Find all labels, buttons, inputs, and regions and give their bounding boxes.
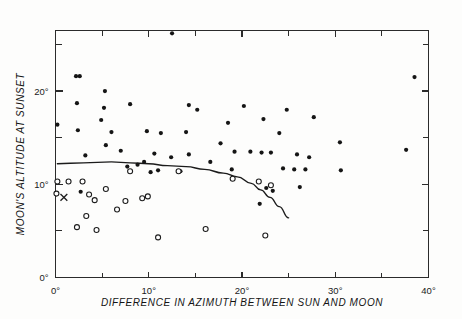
data-point-open: [92, 198, 97, 203]
data-point-filled: [338, 140, 342, 144]
data-point-filled: [271, 189, 275, 193]
data-point-filled: [248, 150, 252, 154]
tick-marks: [56, 31, 429, 278]
x-axis-title: DIFFERENCE IN AZIMUTH BETWEEN SUN AND MO…: [101, 297, 383, 308]
data-point-filled: [242, 104, 246, 108]
data-point-filled: [404, 148, 408, 152]
data-point-filled: [298, 185, 302, 189]
data-point-filled: [195, 108, 199, 112]
data-point-filled: [156, 168, 160, 172]
data-point-filled: [261, 117, 265, 121]
x-tick-label: 0°: [51, 285, 60, 296]
data-point-filled: [277, 131, 281, 135]
data-point-filled: [292, 167, 296, 171]
data-point-open: [128, 169, 133, 174]
data-point-filled: [76, 128, 80, 132]
data-point-open: [230, 176, 235, 181]
data-point-filled: [230, 167, 234, 171]
data-point-filled: [259, 151, 263, 155]
data-point-filled: [285, 108, 289, 112]
data-point-filled: [264, 186, 268, 190]
data-point-open: [145, 194, 150, 199]
data-points: [54, 31, 417, 240]
data-point-filled: [145, 129, 149, 133]
data-point-open: [156, 235, 161, 240]
y-tick-label: 20°: [34, 86, 49, 97]
fitted-curve: [57, 162, 288, 218]
data-point-open: [55, 179, 60, 184]
data-point-filled: [295, 152, 299, 156]
x-tick-label: 30°: [328, 285, 343, 296]
data-point-open: [94, 227, 99, 232]
data-point-filled: [135, 163, 139, 167]
data-point-filled: [99, 118, 103, 122]
data-point-filled: [170, 31, 174, 35]
data-point-filled: [102, 106, 106, 110]
y-tick-label: 10°: [34, 179, 49, 190]
data-point-open: [74, 225, 79, 230]
data-point-open: [80, 179, 85, 184]
scatter-plot-figure: 0°10°20°30°40°0°10°20° DIFFERENCE IN AZI…: [0, 0, 462, 319]
data-point-open: [140, 196, 145, 201]
data-point-filled: [109, 130, 113, 134]
data-point-open: [263, 233, 268, 238]
data-point-filled: [208, 160, 212, 164]
data-point-open: [176, 169, 181, 174]
data-point-filled: [258, 202, 262, 206]
data-point-filled: [218, 141, 222, 145]
data-point-filled: [78, 74, 82, 78]
data-point-filled: [187, 103, 191, 107]
data-point-filled: [412, 75, 416, 79]
x-tick-label: 10°: [142, 285, 157, 296]
data-point-open: [203, 227, 208, 232]
data-point-filled: [55, 123, 59, 127]
axis-box: [56, 31, 429, 278]
data-point-filled: [103, 89, 107, 93]
data-point-filled: [75, 101, 79, 105]
data-point-filled: [269, 151, 273, 155]
axes-frame: [56, 31, 429, 278]
data-point-open: [103, 186, 108, 191]
data-point-filled: [104, 143, 108, 147]
trend-curve-path: [57, 162, 288, 218]
plot-canvas: 0°10°20°30°40°0°10°20° DIFFERENCE IN AZI…: [0, 0, 462, 319]
data-point-filled: [125, 164, 129, 168]
data-point-filled: [232, 150, 236, 154]
data-point-filled: [281, 166, 285, 170]
data-point-filled: [303, 167, 307, 171]
data-point-filled: [74, 74, 78, 78]
data-point-filled: [159, 131, 163, 135]
data-point-filled: [307, 155, 311, 159]
data-point-open: [54, 191, 59, 196]
data-point-open: [84, 213, 89, 218]
data-point-filled: [128, 102, 132, 106]
data-point-x-marker: [60, 194, 67, 201]
data-point-filled: [187, 152, 191, 156]
x-tick-label: 40°: [421, 285, 436, 296]
data-point-filled: [184, 130, 188, 134]
data-point-filled: [312, 115, 316, 119]
data-point-filled: [339, 168, 343, 172]
data-point-open: [256, 179, 261, 184]
data-point-open: [87, 192, 92, 197]
data-point-open: [66, 179, 71, 184]
data-point-filled: [152, 151, 156, 155]
data-point-filled: [149, 170, 153, 174]
data-point-filled: [226, 121, 230, 125]
x-tick-label: 20°: [235, 285, 250, 296]
y-axis-title: MOON'S ALTITUDE AT SUNSET: [15, 72, 26, 235]
data-point-open: [123, 199, 128, 204]
y-tick-label: 0°: [39, 272, 48, 283]
tick-labels: 0°10°20°30°40°0°10°20°: [34, 86, 436, 296]
data-point-open: [268, 183, 273, 188]
data-point-filled: [79, 190, 83, 194]
data-point-filled: [142, 160, 146, 164]
data-point-filled: [169, 155, 173, 159]
data-point-open: [115, 207, 120, 212]
data-point-filled: [119, 149, 123, 153]
data-point-filled: [83, 153, 87, 157]
